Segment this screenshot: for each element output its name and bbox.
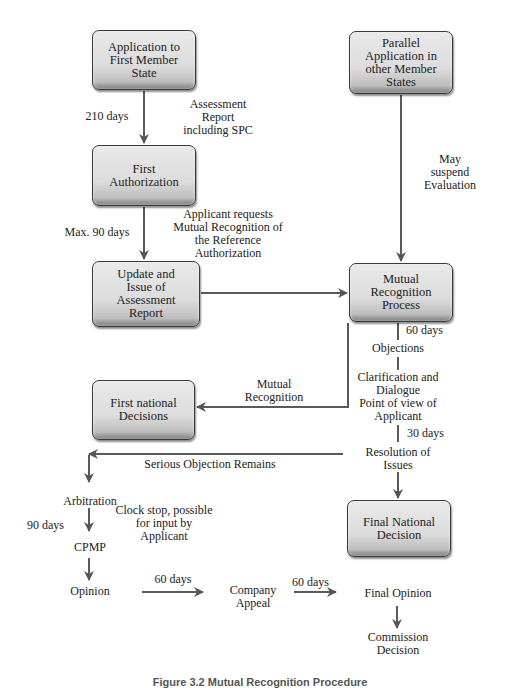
label-assessment-report: Assessment Report including SPC [163,98,273,137]
label-30-days: 30 days [407,427,467,440]
figure-caption: Figure 3.2 Mutual Recognition Procedure [140,676,380,688]
label-final-opinion: Final Opinion [348,587,448,600]
label-resolution-of-issues: Resolution of Issues [346,446,450,472]
label-clock-stop: Clock stop, possible for input by Applic… [104,504,224,543]
label-60-days-appeal: 60 days [140,573,206,586]
label-clarification-dialogue: Clarification and Dialogue Point of view… [346,371,450,423]
box-label: Mutual Recognition Process [354,273,448,312]
label-mutual-recognition: Mutual Recognition [234,378,314,404]
label-company-appeal: Company Appeal [218,584,288,610]
label-commission-decision: Commission Decision [350,631,446,657]
box-update-issue-assessment: Update and Issue of Assessment Report [92,261,200,327]
label-may-suspend: May suspend Evaluation [415,153,485,192]
label-90-days: 90 days [27,519,87,532]
label-objections: Objections [358,342,438,355]
box-label: Update and Issue of Assessment Report [97,268,195,320]
label-max-90-days: Max. 90 days [52,226,142,239]
label-210-days: 210 days [76,110,138,123]
box-parallel-application: Parallel Application in other Member Sta… [349,31,453,94]
box-mutual-recognition-process: Mutual Recognition Process [349,263,453,322]
box-label: Final National Decision [352,516,446,542]
label-serious-objection: Serious Objection Remains [130,458,290,471]
label-60-days-mrp: 60 days [406,324,466,337]
box-first-authorization: First Authorization [92,145,196,206]
label-opinion: Opinion [55,585,125,598]
box-label: First Authorization [97,163,191,189]
label-cpmp: CPMP [62,541,118,554]
box-label: First national Decisions [97,397,190,423]
box-label: Parallel Application in other Member Sta… [354,37,448,89]
box-first-national-decisions: First national Decisions [92,380,195,440]
box-final-national-decision: Final National Decision [347,500,451,557]
box-label: Application to First Member State [97,41,191,80]
label-60-days-final: 60 days [292,576,352,589]
box-application-first-member-state: Application to First Member State [92,30,196,90]
label-applicant-requests: Applicant requests Mutual Recognition of… [158,208,298,260]
